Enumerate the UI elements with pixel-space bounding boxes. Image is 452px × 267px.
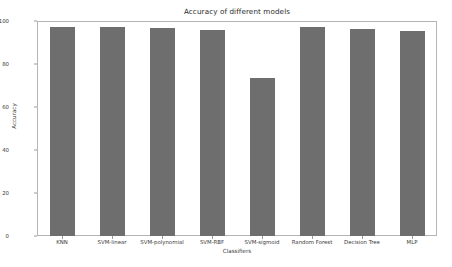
y-axis-tick-label: 40 [0, 147, 9, 153]
x-axis-tick-label: SVM-linear [98, 239, 127, 245]
bar [350, 29, 375, 236]
y-axis-tick-label: 20 [0, 190, 9, 196]
y-axis-tick-label: 80 [0, 61, 9, 67]
y-axis-label: Accuracy [11, 86, 17, 146]
x-axis-tick-label: SVM-sigmoid [245, 239, 280, 245]
x-axis-tick-label: MLP [407, 239, 418, 245]
x-axis-label: Classifiers [37, 248, 437, 254]
bar [400, 31, 425, 236]
bar [300, 27, 325, 236]
bar-chart-figure: Accuracy of different models Accuracy 02… [0, 0, 452, 267]
bar [100, 27, 125, 236]
y-axis-tick-label: 0 [0, 233, 9, 239]
y-axis-tick-label: 60 [0, 104, 9, 110]
bar [250, 78, 275, 236]
chart-title: Accuracy of different models [37, 7, 437, 16]
x-axis-tick-label: Decision Tree [344, 239, 380, 245]
bar [50, 27, 75, 236]
bar [150, 28, 175, 236]
x-axis-tick-label: SVM-RBF [200, 239, 224, 245]
y-axis-tick-label: 100 [0, 18, 9, 24]
x-axis-tick-label: Random Forest [292, 239, 333, 245]
x-axis-tick-label: KNN [56, 239, 68, 245]
plot-area [37, 21, 437, 236]
x-axis-tick-label: SVM-polynomial [140, 239, 183, 245]
bar [200, 30, 225, 236]
